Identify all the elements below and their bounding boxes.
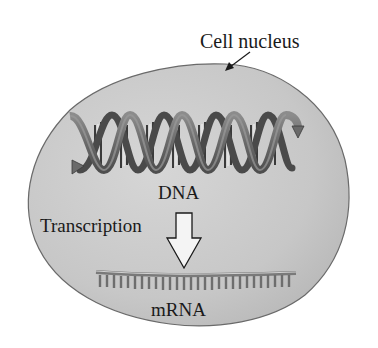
transcription-diagram: Cell nucleus DNA Transcription mRNA [0, 0, 378, 348]
diagram-graphics [0, 0, 378, 348]
transcription-label: Transcription [40, 216, 142, 235]
dna-label: DNA [158, 183, 199, 202]
mrna-label: mRNA [151, 300, 206, 319]
cell-nucleus-label: Cell nucleus [200, 31, 299, 51]
